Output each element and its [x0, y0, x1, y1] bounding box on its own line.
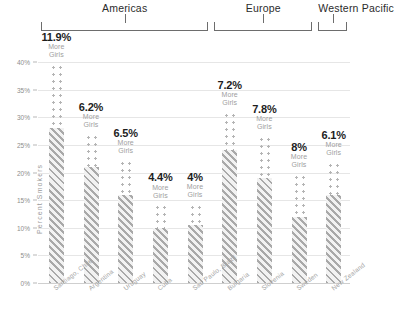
bar-segment-girls: [49, 63, 64, 129]
bar-group: 11.9%MoreGirls: [49, 62, 64, 283]
y-axis-tick-mark: [33, 255, 37, 256]
annotation-more-text: More: [187, 183, 203, 191]
y-axis-tick-label: 15%: [17, 197, 30, 204]
y-axis-tick-mark: [33, 200, 37, 201]
y-axis-tick-label: 25%: [17, 141, 30, 148]
bar-value-annotation: 11.9%MoreGirls: [42, 31, 72, 59]
y-axis-tick-mark: [33, 62, 37, 63]
annotation-girls-text: Girls: [218, 99, 242, 107]
annotation-girls-text: Girls: [291, 161, 307, 169]
bar-segment-girls: [222, 111, 237, 151]
annotation-more-text: More: [322, 141, 346, 149]
annotation-more-text: More: [148, 184, 172, 192]
region-group-label: Americas: [41, 2, 208, 14]
y-axis-tick-mark: [33, 89, 37, 90]
bar-segment-boys: [49, 128, 64, 283]
y-axis-tick-label: 20%: [17, 169, 30, 176]
annotation-girls-text: Girls: [42, 51, 72, 59]
bar-value-annotation: 6.1%MoreGirls: [322, 129, 346, 157]
bar-group: 8%MoreGirls: [292, 62, 307, 283]
bar-group: 6.5%MoreGirls: [118, 62, 133, 283]
y-axis-tick-mark: [33, 117, 37, 118]
annotation-girls-text: Girls: [252, 123, 276, 131]
bar-segment-girls: [188, 203, 203, 225]
bar-segment-boys: [188, 225, 203, 283]
bar-segment-girls: [292, 173, 307, 217]
bar-group: 7.2%MoreGirls: [222, 62, 237, 283]
bar-value-annotation: 4.4%MoreGirls: [148, 171, 172, 199]
y-axis-tick-mark: [33, 227, 37, 228]
bar-group: 4.4%MoreGirls: [153, 62, 168, 283]
bar-segment-boys: [257, 178, 272, 283]
bar-value-annotation: 8%MoreGirls: [291, 141, 307, 169]
y-axis-tick-mark: [33, 144, 37, 145]
difference-percent-label: 4%: [187, 171, 203, 183]
y-axis-tick-label: 10%: [17, 224, 30, 231]
difference-percent-label: 8%: [291, 141, 307, 153]
difference-percent-label: 4.4%: [148, 171, 172, 183]
region-bracket-tick: [263, 14, 264, 23]
bar-group: 4%MoreGirls: [188, 62, 203, 283]
y-axis-tick-label: 35%: [17, 86, 30, 93]
annotation-more-text: More: [42, 43, 72, 51]
region-bracket: [318, 22, 347, 31]
annotation-more-text: More: [252, 115, 276, 123]
bar-value-annotation: 7.2%MoreGirls: [218, 79, 242, 107]
y-axis-tick-label: 5%: [21, 252, 30, 259]
bar-segment-boys: [292, 217, 307, 283]
bar-value-annotation: 4%MoreGirls: [187, 171, 203, 199]
y-axis-tick-label: 0%: [21, 280, 30, 287]
bar-value-annotation: 7.8%MoreGirls: [252, 103, 276, 131]
difference-percent-label: 7.2%: [218, 79, 242, 91]
bar-segment-boys: [326, 195, 341, 283]
bar-segment-girls: [326, 161, 341, 195]
annotation-more-text: More: [291, 153, 307, 161]
region-group-label: Europe: [214, 2, 312, 14]
region-group: Western Pacific: [318, 0, 347, 38]
bar-group: 7.8%MoreGirls: [257, 62, 272, 283]
bar-segment-boys: [153, 228, 168, 283]
region-group-label: Western Pacific: [318, 2, 347, 14]
bar-group: 6.2%MoreGirls: [84, 62, 99, 283]
y-axis-tick-label: 30%: [17, 114, 30, 121]
annotation-girls-text: Girls: [148, 192, 172, 200]
annotation-girls-text: Girls: [322, 149, 346, 157]
difference-percent-label: 6.2%: [79, 101, 103, 113]
region-group: Europe: [214, 0, 312, 38]
annotation-more-text: More: [79, 113, 103, 121]
y-axis-tick-mark: [33, 283, 37, 284]
region-bracket-tick: [333, 14, 334, 23]
region-bracket-tick: [125, 14, 126, 23]
difference-percent-label: 11.9%: [42, 31, 72, 43]
annotation-girls-text: Girls: [187, 191, 203, 199]
y-axis-tick-mark: [33, 172, 37, 173]
bar-segment-girls: [257, 135, 272, 178]
bar-segment-girls: [153, 203, 168, 227]
plot-area: Percent Smokers 0%5%10%15%20%25%30%35%40…: [38, 62, 350, 283]
bar-value-annotation: 6.2%MoreGirls: [79, 101, 103, 129]
bar-segment-boys: [118, 195, 133, 283]
bar-value-annotation: 6.5%MoreGirls: [114, 127, 138, 155]
difference-percent-label: 6.1%: [322, 129, 346, 141]
bar-group: 6.1%MoreGirls: [326, 62, 341, 283]
bar-segment-girls: [84, 133, 99, 167]
difference-percent-label: 6.5%: [114, 127, 138, 139]
difference-percent-label: 7.8%: [252, 103, 276, 115]
annotation-girls-text: Girls: [79, 121, 103, 129]
y-axis-title: Percent Smokers: [36, 164, 43, 234]
annotation-more-text: More: [218, 91, 242, 99]
annotation-girls-text: Girls: [114, 147, 138, 155]
bar-segment-girls: [118, 159, 133, 195]
region-bracket: [214, 22, 312, 31]
y-axis-tick-label: 40%: [17, 59, 30, 66]
annotation-more-text: More: [114, 139, 138, 147]
